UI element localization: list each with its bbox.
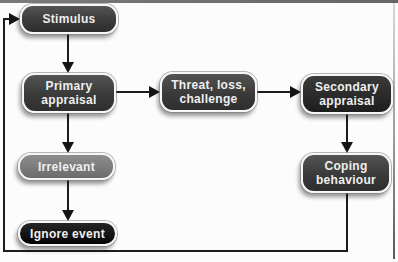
node-secondary-appraisal: Secondary appraisal: [301, 74, 393, 114]
feedback-loop-arrowhead-icon: [9, 13, 20, 25]
node-threat-loss-challenge-label: Threat, loss, challenge: [171, 78, 246, 106]
flowchart-stress-appraisal: Stimulus Primary appraisal Threat, loss,…: [0, 0, 398, 262]
edge-stimulus-primary-line: [67, 33, 69, 62]
node-primary-appraisal-label: Primary appraisal: [41, 79, 96, 107]
node-irrelevant: Irrelevant: [18, 153, 115, 180]
node-irrelevant-label: Irrelevant: [38, 160, 95, 174]
node-ignore-event-label: Ignore event: [30, 227, 105, 241]
frame-bottom-border: [0, 0, 398, 3]
edge-secondary-coping-line: [346, 114, 348, 142]
node-primary-appraisal: Primary appraisal: [22, 73, 116, 113]
edge-primary-irrelevant-arrowhead-icon: [62, 142, 74, 153]
edge-irrelevant-ignore-arrowhead-icon: [62, 210, 74, 221]
node-stimulus-label: Stimulus: [42, 12, 95, 26]
edge-primary-threat-line: [116, 91, 149, 93]
edge-threat-secondary-line: [257, 91, 290, 93]
edge-primary-threat-arrowhead-icon: [149, 86, 160, 98]
node-threat-loss-challenge: Threat, loss, challenge: [160, 72, 257, 112]
edge-threat-secondary-arrowhead-icon: [290, 86, 301, 98]
edge-primary-irrelevant-line: [67, 113, 69, 142]
feedback-loop-bottom-segment: [3, 250, 348, 252]
node-stimulus: Stimulus: [20, 4, 118, 34]
node-coping-behaviour-label: Coping behaviour: [316, 159, 376, 187]
edge-secondary-coping-arrowhead-icon: [341, 142, 353, 153]
edge-stimulus-primary-arrowhead-icon: [62, 62, 74, 73]
feedback-loop-left-segment: [3, 19, 5, 252]
node-secondary-appraisal-label: Secondary appraisal: [315, 80, 379, 108]
node-coping-behaviour: Coping behaviour: [301, 153, 391, 193]
frame-right-border: [393, 0, 395, 259]
edge-irrelevant-ignore-line: [67, 180, 69, 210]
node-ignore-event: Ignore event: [18, 221, 117, 246]
feedback-loop-down-segment: [346, 193, 348, 252]
